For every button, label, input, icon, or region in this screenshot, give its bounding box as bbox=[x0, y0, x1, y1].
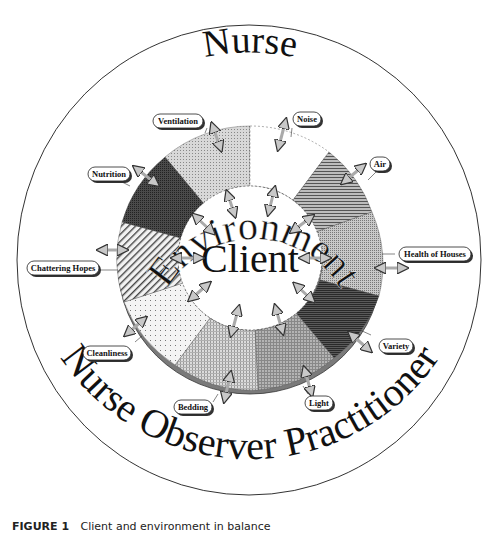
svg-text:Health of Houses: Health of Houses bbox=[404, 249, 467, 259]
svg-text:Variety: Variety bbox=[383, 341, 410, 351]
svg-text:Chattering Hopes: Chattering Hopes bbox=[31, 263, 96, 273]
svg-text:Bedding: Bedding bbox=[178, 402, 209, 412]
label-nutrition: Nutrition bbox=[88, 167, 132, 183]
label-noise: Noise bbox=[293, 112, 323, 128]
svg-text:Air: Air bbox=[374, 159, 387, 169]
label-variety: Variety bbox=[379, 339, 415, 355]
figure-caption: FIGURE 1 Client and environment in balan… bbox=[12, 520, 270, 533]
figure-number: FIGURE 1 bbox=[12, 520, 69, 533]
label-air: Air bbox=[370, 157, 392, 173]
svg-text:Light: Light bbox=[309, 398, 329, 408]
client-title: Client bbox=[201, 236, 299, 281]
svg-text:Noise: Noise bbox=[297, 114, 317, 124]
label-health-of-houses: Health of Houses bbox=[399, 247, 473, 263]
svg-text:Ventilation: Ventilation bbox=[158, 116, 198, 126]
svg-text:Cleanliness: Cleanliness bbox=[86, 348, 128, 358]
figure-caption-text: Client and environment in balance bbox=[81, 520, 271, 533]
label-chattering-hopes: Chattering Hopes bbox=[27, 261, 101, 277]
label-ventilation: Ventilation bbox=[153, 114, 205, 130]
label-bedding: Bedding bbox=[174, 400, 214, 416]
label-light: Light bbox=[305, 396, 335, 412]
nurse-environment-diagram: Nurse Environment Client Nurse Observer … bbox=[0, 0, 498, 510]
svg-text:Nutrition: Nutrition bbox=[92, 169, 126, 179]
label-cleanliness: Cleanliness bbox=[83, 346, 133, 362]
